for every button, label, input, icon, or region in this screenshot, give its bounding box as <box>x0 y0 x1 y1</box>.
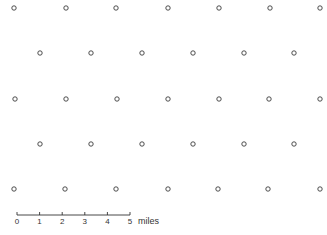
settlement-point-icon <box>89 142 93 146</box>
scale-tick-label: 4 <box>105 218 109 226</box>
settlement-point-icon <box>318 6 322 10</box>
settlement-pattern-map <box>0 0 327 235</box>
scale-tick-label: 1 <box>37 218 41 226</box>
settlement-point-icon <box>267 97 271 101</box>
scale-tick-label: 5 <box>128 218 132 226</box>
settlement-point-icon <box>242 142 246 146</box>
settlement-point-icon <box>89 51 93 55</box>
settlement-point-icon <box>217 6 221 10</box>
settlement-point-icon <box>166 97 170 101</box>
scale-tick-label: 3 <box>83 218 87 226</box>
scale-tick-label: 2 <box>60 218 64 226</box>
settlement-point-icon <box>266 187 270 191</box>
settlement-point-icon <box>115 97 119 101</box>
settlement-point-icon <box>318 187 322 191</box>
settlement-point-icon <box>140 51 144 55</box>
settlement-point-icon <box>114 187 118 191</box>
settlement-point-icon <box>64 97 68 101</box>
settlement-point-icon <box>64 6 68 10</box>
scale-units-label: miles <box>138 217 159 226</box>
settlement-point-icon <box>216 187 220 191</box>
settlement-point-icon <box>191 51 195 55</box>
settlement-point-icon <box>242 51 246 55</box>
settlement-point-icon <box>38 51 42 55</box>
settlement-point-icon <box>318 97 322 101</box>
settlement-point-icon <box>166 6 170 10</box>
settlement-point-icon <box>140 142 144 146</box>
settlement-point-icon <box>12 187 16 191</box>
scale-tick-label: 0 <box>15 218 19 226</box>
settlement-point-icon <box>12 6 16 10</box>
settlement-point-icon <box>166 187 170 191</box>
settlement-point-icon <box>292 142 296 146</box>
settlement-point-icon <box>13 97 17 101</box>
settlement-point-icon <box>38 142 42 146</box>
settlement-point-icon <box>191 142 195 146</box>
settlement-point-icon <box>114 6 118 10</box>
settlement-point-icon <box>63 187 67 191</box>
settlement-point-icon <box>268 6 272 10</box>
settlement-point-icon <box>292 51 296 55</box>
settlement-point-icon <box>217 97 221 101</box>
